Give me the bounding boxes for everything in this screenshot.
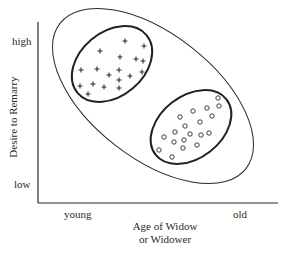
circle-marker xyxy=(198,120,202,124)
circle-marker xyxy=(172,140,176,144)
plus-marker xyxy=(117,86,122,91)
y-axis-label: Desire to Remarry xyxy=(7,76,19,157)
circle-marker xyxy=(173,130,177,134)
x-axis-label-line1: Age of Widow xyxy=(133,220,198,233)
plus-marker xyxy=(117,78,122,83)
x-axis-label-line2: or Widower xyxy=(133,233,198,246)
plus-marker xyxy=(123,39,128,44)
plus-marker xyxy=(102,85,107,90)
plus-marker xyxy=(134,57,139,62)
x-young-label: young xyxy=(64,208,92,220)
circle-marker xyxy=(195,143,199,147)
circle-marker xyxy=(178,115,182,119)
x-axis-label: Age of Widow or Widower xyxy=(133,220,198,246)
plus-markers xyxy=(78,39,147,97)
plus-marker xyxy=(118,55,123,60)
plus-marker xyxy=(128,74,133,79)
y-high-label: high xyxy=(12,35,32,47)
plus-cluster-ellipse xyxy=(57,11,167,118)
circle-marker xyxy=(157,148,161,152)
y-low-label: low xyxy=(14,178,31,190)
plus-marker xyxy=(95,67,100,72)
circle-cluster-ellipse xyxy=(136,75,245,179)
plus-marker xyxy=(117,68,122,73)
plus-marker xyxy=(107,73,112,78)
plus-marker xyxy=(142,44,147,49)
outer-ellipse xyxy=(22,0,284,218)
plus-marker xyxy=(141,59,146,64)
circle-marker xyxy=(199,133,203,137)
circle-marker xyxy=(170,155,174,159)
diagram-canvas xyxy=(0,0,291,256)
plus-marker xyxy=(78,84,83,89)
circle-marker xyxy=(181,146,185,150)
circle-marker xyxy=(207,131,211,135)
plus-marker xyxy=(86,92,91,97)
circle-marker xyxy=(183,124,187,128)
circle-marker xyxy=(188,132,192,136)
circle-marker xyxy=(205,106,209,110)
circle-marker xyxy=(182,138,186,142)
plus-marker xyxy=(98,49,103,54)
x-old-label: old xyxy=(233,208,247,220)
circle-marker xyxy=(191,109,195,113)
circle-marker xyxy=(216,96,220,100)
plus-marker xyxy=(140,70,145,75)
circle-marker xyxy=(210,114,214,118)
circle-marker xyxy=(217,104,221,108)
plus-marker xyxy=(79,68,84,73)
plus-marker xyxy=(91,82,96,87)
circle-marker xyxy=(162,135,166,139)
